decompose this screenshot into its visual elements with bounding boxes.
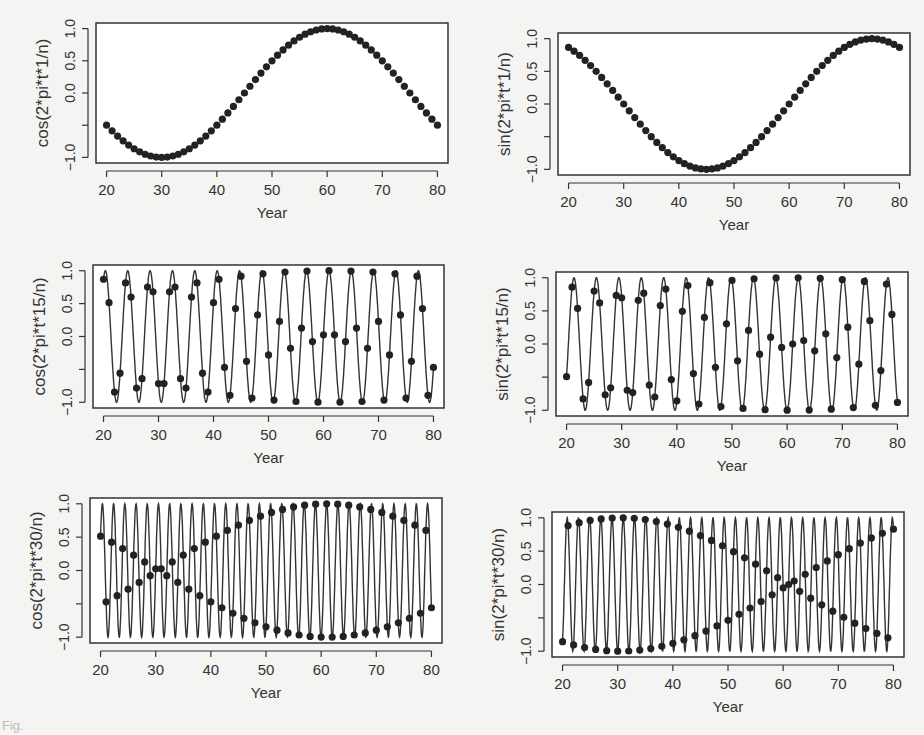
data-point: [629, 389, 636, 396]
data-point: [741, 149, 748, 156]
x-tick-label: 70: [370, 426, 387, 443]
data-point: [276, 318, 283, 325]
data-point: [226, 392, 233, 399]
data-point: [822, 330, 829, 337]
data-point: [307, 633, 314, 640]
y-tick-label: −1.0: [522, 396, 538, 424]
y-axis-label: sin(2*pi*t*15/n): [493, 287, 512, 400]
data-point: [620, 514, 627, 521]
data-point: [713, 622, 720, 629]
x-tick-label: 20: [98, 181, 115, 198]
data-point: [229, 610, 236, 617]
data-point: [114, 592, 121, 599]
data-point: [356, 503, 363, 510]
data-point: [116, 370, 123, 377]
data-point: [636, 647, 643, 654]
data-point: [647, 645, 654, 652]
y-tick-label: 1.0: [59, 261, 75, 281]
data-point: [406, 615, 413, 622]
data-point: [866, 317, 873, 324]
x-axis-label: Year: [257, 204, 287, 221]
data-point: [581, 644, 588, 651]
data-point: [224, 527, 231, 534]
data-point: [204, 388, 211, 395]
data-point: [182, 384, 189, 391]
data-point: [811, 347, 818, 354]
data-point: [362, 42, 369, 49]
data-point: [564, 522, 571, 529]
data-point: [653, 139, 660, 146]
data-point: [669, 640, 676, 647]
chart-panel-sin-15: 20304050607080Year−1.00.00.51.0sin(2*pi*…: [493, 268, 908, 474]
data-point: [728, 277, 735, 284]
data-point: [602, 391, 609, 398]
data-point: [347, 267, 354, 274]
data-point: [888, 311, 895, 318]
data-point: [631, 114, 638, 121]
data-point: [331, 331, 338, 338]
x-tick-label: 80: [423, 661, 440, 678]
data-point: [408, 358, 415, 365]
data-point: [191, 545, 198, 552]
x-tick-label: 50: [260, 426, 277, 443]
data-point: [259, 270, 266, 277]
x-tick-label: 40: [671, 193, 688, 210]
data-point: [413, 273, 420, 280]
data-point: [680, 636, 687, 643]
data-point: [389, 513, 396, 520]
data-point: [702, 627, 709, 634]
data-point: [114, 132, 121, 139]
data-point: [122, 279, 129, 286]
data-point: [386, 351, 393, 358]
y-tick-label: −1.0: [59, 388, 75, 416]
data-point: [808, 74, 815, 81]
x-axis-label: Year: [713, 698, 743, 715]
data-point: [835, 551, 842, 558]
data-point: [314, 399, 321, 406]
data-point: [570, 641, 577, 648]
data-point: [401, 83, 408, 90]
data-point: [824, 57, 831, 64]
data-point: [719, 542, 726, 549]
data-point: [378, 509, 385, 516]
data-point: [653, 518, 660, 525]
y-axis-label: sin(2*pi*t*1/n): [495, 52, 514, 156]
data-point: [752, 561, 759, 568]
x-tick-label: 50: [264, 181, 281, 198]
data-point: [646, 382, 653, 389]
data-point: [756, 351, 763, 358]
data-point: [890, 526, 897, 533]
data-point: [662, 285, 669, 292]
data-point: [592, 646, 599, 653]
data-point: [675, 524, 682, 531]
data-point: [160, 380, 167, 387]
data-point: [428, 604, 435, 611]
data-point: [563, 373, 570, 380]
data-point: [362, 629, 369, 636]
figure-caption-fragment: Fig.: [2, 718, 24, 733]
data-point: [174, 579, 181, 586]
data-point: [411, 522, 418, 529]
data-point: [375, 318, 382, 325]
data-point: [166, 288, 173, 295]
data-point: [384, 623, 391, 630]
data-point: [750, 275, 757, 282]
data-point: [773, 274, 780, 281]
y-tick-label: 0.0: [56, 561, 72, 581]
data-point: [430, 364, 437, 371]
data-point: [273, 627, 280, 634]
data-point: [318, 634, 325, 641]
data-point: [210, 299, 217, 306]
data-point: [855, 361, 862, 368]
x-tick-label: 40: [203, 661, 220, 678]
data-point: [679, 308, 686, 315]
data-point: [651, 393, 658, 400]
data-point: [218, 604, 225, 611]
x-tick-label: 80: [429, 181, 446, 198]
data-point: [582, 57, 589, 64]
data-point: [102, 598, 109, 605]
data-point: [177, 375, 184, 382]
data-point: [171, 283, 178, 290]
data-point: [807, 595, 814, 602]
data-point: [574, 305, 581, 312]
